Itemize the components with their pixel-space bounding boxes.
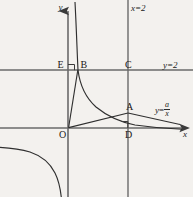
hyperbola-branch-quadrant-3 (0, 147, 62, 197)
point-label-D: D (125, 130, 132, 140)
y-axis-label: y (59, 3, 63, 12)
point-label-C: C (125, 60, 132, 70)
point-label-O: O (59, 130, 66, 140)
x-axis-label: x (183, 130, 187, 139)
geometry-figure (0, 0, 193, 197)
segment-A-right (128, 113, 180, 125)
curve-equation-fraction: a x (164, 101, 170, 119)
line-label-x-equals-2: x=2 (131, 4, 146, 13)
curve-equation-denominator: x (164, 109, 170, 118)
point-label-B: B (81, 60, 88, 70)
curve-equation-numerator: a (164, 101, 170, 109)
curve-equation-label: y= a x (155, 102, 170, 120)
line-label-y-equals-2: y=2 (163, 61, 178, 70)
point-label-A: A (126, 102, 133, 112)
segment-OB (69, 70, 78, 127)
point-label-E: E (58, 60, 64, 70)
